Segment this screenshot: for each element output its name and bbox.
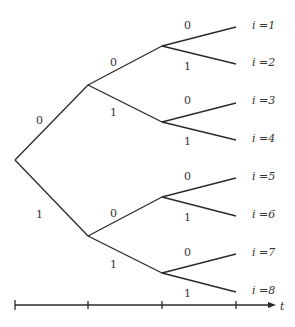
- edge-1a-down: [88, 85, 162, 122]
- edge-2a-up: [162, 27, 236, 46]
- edge-label: 1: [184, 60, 191, 73]
- edge-label: 0: [36, 114, 43, 127]
- edge-label: 1: [110, 106, 117, 119]
- edge-label: 1: [184, 135, 191, 148]
- edge-2d-up: [162, 254, 236, 273]
- edge-2b-down: [162, 122, 236, 140]
- edge-label: 0: [110, 56, 117, 69]
- edge-2b-up: [162, 103, 236, 122]
- edge-root-up: [15, 85, 88, 160]
- edge-label: 1: [110, 258, 117, 271]
- axis-label: t: [280, 300, 285, 313]
- edge-root-down: [15, 160, 88, 236]
- leaf-label-2: i =2: [252, 56, 275, 69]
- leaf-label-7: i =7: [252, 246, 275, 259]
- edge-label: 1: [184, 211, 191, 224]
- edge-2d-down: [162, 273, 236, 292]
- edge-label: 0: [184, 246, 191, 259]
- leaf-label-3: i =3: [252, 94, 275, 107]
- edge-label: 0: [184, 94, 191, 107]
- axis-arrow-icon: [268, 302, 276, 308]
- leaf-label-1: i =1: [252, 19, 275, 32]
- edge-label: 0: [184, 170, 191, 183]
- edge-2a-down: [162, 46, 236, 64]
- edge-label: 1: [184, 287, 191, 300]
- leaf-label-5: i =5: [252, 170, 275, 183]
- leaf-label-4: i =4: [252, 132, 275, 145]
- edge-1b-up: [88, 197, 162, 236]
- leaf-label-6: i =6: [252, 208, 275, 221]
- edge-1a-up: [88, 46, 162, 85]
- edge-label: 0: [110, 207, 117, 220]
- edge-2c-up: [162, 178, 236, 197]
- binary-tree-diagram: 0 1 0 1 0 1 0 1 0 1 0 1 0 1 i =1 i =2 i …: [0, 0, 295, 327]
- leaf-label-8: i =8: [252, 284, 275, 297]
- edge-label: 1: [36, 208, 43, 221]
- edge-1b-down: [88, 236, 162, 273]
- edge-2c-down: [162, 197, 236, 216]
- edge-label: 0: [184, 19, 191, 32]
